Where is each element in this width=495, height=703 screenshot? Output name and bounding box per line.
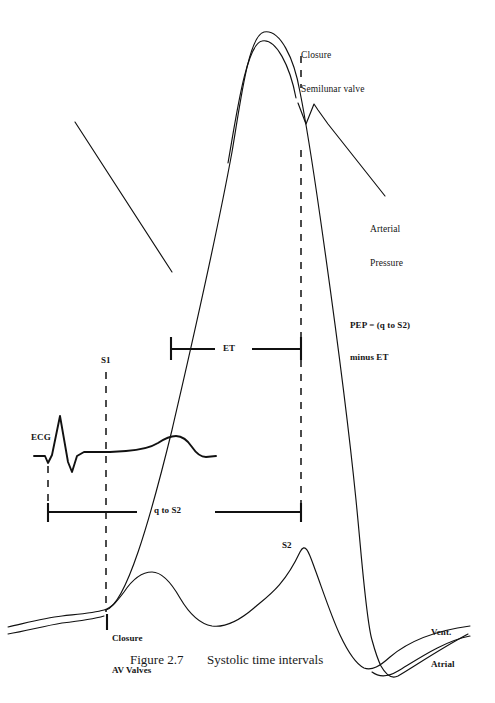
vent-atrial-label: Vent. Atrial xyxy=(431,606,455,691)
closure-semilunar-line2: Semilunar valve xyxy=(301,84,365,95)
vent-label: Vent. xyxy=(431,627,455,638)
figure-caption-number: Figure 2.7 xyxy=(130,652,183,668)
figure-caption-title: Systolic time intervals xyxy=(207,652,323,668)
figure-container: Closure Semilunar valve Arterial Pressur… xyxy=(0,0,495,703)
q-to-s2-interval-label: q to S2 xyxy=(154,505,181,516)
ecg-trace xyxy=(34,416,216,472)
pep-formula-label: PEP = (q to S2) minus ET xyxy=(350,299,410,384)
s2-marker-label: S2 xyxy=(282,540,292,551)
ventricular-diastolic-trace xyxy=(8,548,470,669)
arterial-pressure-trace xyxy=(75,122,172,272)
waveform-canvas xyxy=(0,0,495,703)
atrial-pressure-trace xyxy=(8,616,104,634)
arterial-pressure-label: Arterial Pressure xyxy=(370,202,403,292)
et-interval-label: ET xyxy=(223,343,235,354)
ventricular-pressure-trace xyxy=(106,32,468,677)
closure-semilunar-line1: Closure xyxy=(301,50,365,61)
ecg-label: ECG xyxy=(31,432,51,443)
atrial-upper-trace xyxy=(228,41,296,163)
closure-semilunar-valve-label: Closure Semilunar valve xyxy=(301,28,365,118)
arterial-pressure-line2: Pressure xyxy=(370,258,403,269)
arterial-pressure-line1: Arterial xyxy=(370,224,403,235)
s1-marker-label: S1 xyxy=(101,355,111,366)
pep-formula-line2: minus ET xyxy=(350,352,410,363)
atrial-pressure-tail-trace xyxy=(372,636,470,676)
closure-av-line1: Closure xyxy=(112,633,151,644)
atrial-label: Atrial xyxy=(431,659,455,670)
pep-formula-line1: PEP = (q to S2) xyxy=(350,320,410,331)
